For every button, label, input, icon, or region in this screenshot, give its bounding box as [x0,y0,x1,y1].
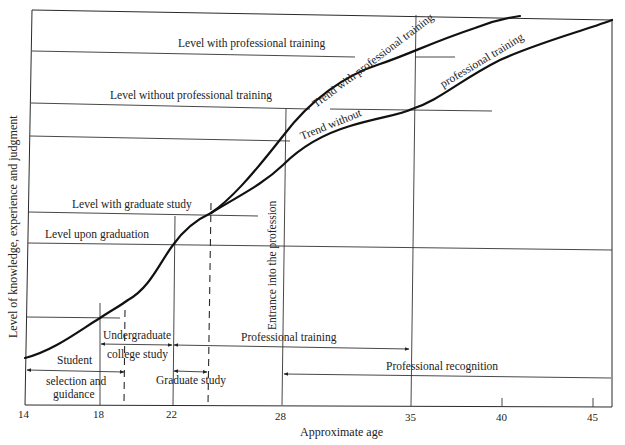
career-development-diagram: Level with professional training Level w… [0,0,625,445]
x-axis-ticks: 14 18 22 28 35 40 45 [18,408,599,423]
label-professional-training: Professional training [241,331,337,344]
label-student: Student [57,354,93,366]
label-level-with-graduate-study: Level with graduate study [72,198,192,211]
tick-18: 18 [93,408,105,420]
tick-40: 40 [496,411,508,423]
label-selection-and: selection and [46,375,107,387]
label-level-upon-graduation: Level upon graduation [45,228,149,241]
label-level-without-professional-training: Level without professional training [110,89,272,102]
label-trend-with: Trend with professional training [310,11,436,111]
tick-14: 14 [18,408,30,420]
label-college-study: college study [107,348,168,361]
y-axis-label: Level of knowledge, experience and judgm… [6,115,20,338]
tick-45: 45 [587,411,599,423]
label-level-with-professional-training: Level with professional training [178,37,325,50]
x-axis-label: Approximate age [300,425,383,439]
tick-35: 35 [405,411,417,423]
label-graduate-study: Graduate study [156,374,226,387]
tick-22: 22 [166,408,177,420]
label-guidance: guidance [53,388,95,401]
label-entrance-into-profession: Entrance into the profession [266,200,279,330]
label-trend-without-2: professional training [438,30,526,90]
label-professional-recognition: Professional recognition [386,360,498,373]
label-undergraduate: Undergraduate [103,329,171,342]
tick-28: 28 [275,410,287,422]
